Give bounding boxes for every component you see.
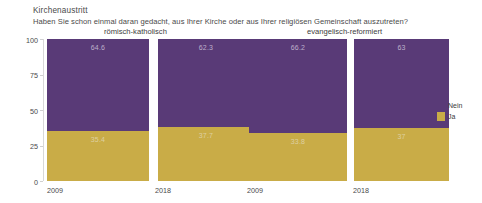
group-label-roemisch-katholisch: römisch-katholisch — [104, 27, 167, 36]
table-row[interactable]: 62.3 37.7 — [158, 39, 254, 181]
chart-figure: Kirchenaustritt Haben Sie schon einmal d… — [0, 0, 482, 203]
bar-segment-ja[interactable]: 33.8 — [249, 133, 347, 181]
bar-value-nein: 63 — [354, 44, 449, 51]
bar-segment-nein[interactable]: 62.3 — [158, 39, 254, 127]
x-tick-label-1: 2018 — [133, 186, 193, 195]
group-label-evangelisch-reformiert: evangelisch-reformiert — [307, 27, 382, 36]
bar-segment-nein[interactable]: 64.6 — [47, 39, 149, 131]
table-row[interactable]: 63 37 — [354, 39, 449, 181]
bar-value-ja: 35.4 — [47, 136, 149, 143]
chart-subtitle: Haben Sie schon einmal daran gedacht, au… — [33, 17, 408, 26]
bar-value-ja: 37.7 — [158, 132, 254, 139]
x-tick-label-3: 2018 — [331, 186, 391, 195]
table-row[interactable]: 64.6 35.4 — [47, 39, 149, 181]
legend-swatch-nein — [437, 101, 445, 110]
y-tick-label-75: 75 — [14, 71, 38, 80]
legend-item-ja[interactable]: Ja — [437, 111, 462, 122]
bar-segment-ja[interactable]: 37.7 — [158, 127, 254, 181]
chart-legend: Nein Ja — [437, 100, 462, 122]
bar-segment-ja[interactable]: 35.4 — [47, 131, 149, 181]
y-tick-mark-0 — [40, 181, 43, 182]
chart-title: Kirchenaustritt — [33, 6, 88, 15]
bar-value-nein: 62.3 — [158, 44, 254, 51]
bar-segment-ja[interactable]: 37 — [354, 128, 449, 181]
bar-value-nein: 66.2 — [249, 44, 347, 51]
bar-value-nein: 64.6 — [47, 44, 149, 51]
bar-value-ja: 33.8 — [249, 138, 347, 145]
legend-label-nein: Nein — [448, 102, 462, 109]
y-tick-label-100: 100 — [14, 36, 38, 45]
bar-value-ja: 37 — [354, 133, 449, 140]
x-tick-label-2: 2009 — [225, 186, 285, 195]
plot-area: 64.6 35.4 62.3 37.7 66.2 33.8 — [43, 39, 450, 181]
bar-segment-nein[interactable]: 66.2 — [249, 39, 347, 133]
x-tick-label-0: 2009 — [25, 186, 85, 195]
legend-label-ja: Ja — [448, 113, 455, 120]
legend-item-nein[interactable]: Nein — [437, 100, 462, 111]
legend-swatch-ja — [437, 112, 445, 121]
y-tick-label-25: 25 — [14, 142, 38, 151]
bar-segment-nein[interactable]: 63 — [354, 39, 449, 128]
table-row[interactable]: 66.2 33.8 — [249, 39, 347, 181]
y-tick-label-50: 50 — [14, 107, 38, 116]
